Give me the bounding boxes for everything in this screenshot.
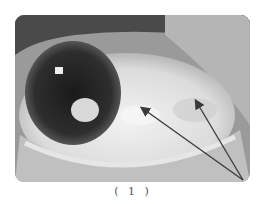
pointer-arrows [15,15,250,182]
figure-caption: ( 1 ) [0,185,266,198]
eye-photograph [15,15,250,182]
arrow-1 [142,108,243,180]
arrow-2 [196,101,243,180]
